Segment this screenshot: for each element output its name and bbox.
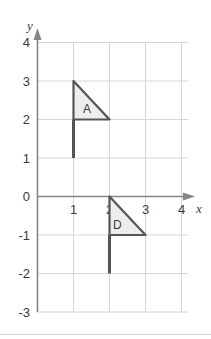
y-axis-label: y: [25, 18, 33, 33]
y-tick-label-neg3: -3: [18, 305, 30, 320]
y-tick-label-1: 1: [23, 151, 30, 166]
y-tick-label-0: 0: [23, 189, 30, 204]
coordinate-plane-figure: 4 3 2 1 0 -1 -2 -3 1 2 3 4 y x A: [0, 0, 211, 339]
y-axis-arrowhead: [34, 28, 42, 40]
x-tick-label-1: 1: [70, 202, 77, 217]
y-tick-label-neg2: -2: [18, 266, 30, 281]
vertical-gridlines: [74, 42, 182, 312]
shape-a-flag: A: [74, 81, 110, 158]
y-tick-labels: 4 3 2 1 0 -1 -2 -3: [18, 35, 30, 320]
coordinate-plot-svg: 4 3 2 1 0 -1 -2 -3 1 2 3 4 y x A: [0, 0, 211, 339]
axes: [34, 28, 196, 312]
shape-d-flag: D: [110, 197, 146, 274]
x-axis-arrowhead: [183, 193, 195, 201]
y-tick-label-3: 3: [23, 74, 30, 89]
x-axis-label: x: [195, 201, 202, 216]
y-tick-label-4: 4: [23, 35, 30, 50]
shape-a-label: A: [83, 102, 91, 116]
shape-a-triangle: [74, 81, 110, 120]
x-tick-label-4: 4: [178, 202, 185, 217]
x-tick-label-3: 3: [142, 202, 149, 217]
y-tick-label-neg1: -1: [18, 228, 30, 243]
horizontal-gridlines: [38, 43, 189, 313]
shape-d-label: D: [113, 218, 122, 232]
y-tick-label-2: 2: [23, 112, 30, 127]
